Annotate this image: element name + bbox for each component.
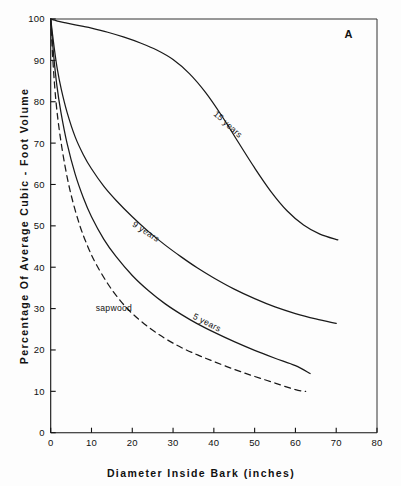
y-axis-title: Percentage Of Average Cubic - Foot Volum… <box>18 88 30 364</box>
curve-label-sapwood: sapwood <box>96 303 133 313</box>
axis-ticks <box>51 19 377 433</box>
x-tick-label: 40 <box>208 437 219 448</box>
x-tick-label: 30 <box>168 437 179 448</box>
curve-label-9-years: 9 years <box>131 219 162 244</box>
x-tick-label: 10 <box>86 437 97 448</box>
y-tick-label: 50 <box>34 220 45 231</box>
x-tick-label: 50 <box>249 437 260 448</box>
series-line-9-years <box>51 19 337 323</box>
y-tick-label: 70 <box>34 138 45 149</box>
series-line-sapwood <box>51 19 306 391</box>
chart-annotations: A <box>344 28 352 40</box>
data-series <box>51 19 338 391</box>
y-tick-label: 90 <box>34 55 45 66</box>
figure-container: 010203040506070800102030405060708090100 … <box>0 0 401 486</box>
series-line-5-years <box>51 19 310 374</box>
y-tick-label: 80 <box>34 96 45 107</box>
curve-labels: 15 years9 years5 yearssapwood <box>96 109 245 334</box>
panel-label: A <box>344 28 352 40</box>
x-tick-label: 20 <box>127 437 138 448</box>
y-tick-label: 40 <box>34 262 45 273</box>
y-tick-label: 30 <box>34 303 45 314</box>
y-tick-label: 10 <box>34 386 45 397</box>
y-tick-label: 60 <box>34 179 45 190</box>
series-line-15-years <box>51 19 338 240</box>
x-tick-label: 60 <box>290 437 301 448</box>
y-tick-label: 20 <box>34 344 45 355</box>
x-axis-title: Diameter Inside Bark (inches) <box>107 467 295 479</box>
plot-frame <box>51 19 377 433</box>
x-tick-label: 0 <box>48 437 53 448</box>
x-tick-label: 80 <box>372 437 383 448</box>
y-tick-label: 100 <box>28 13 44 24</box>
y-tick-label: 0 <box>39 427 44 438</box>
chart-svg: 010203040506070800102030405060708090100 … <box>0 0 401 486</box>
x-tick-label: 70 <box>331 437 342 448</box>
curve-label-15-years: 15 years <box>212 109 245 140</box>
